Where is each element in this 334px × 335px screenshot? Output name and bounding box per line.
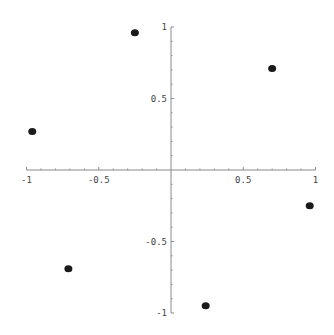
y-tick-label: -1 <box>156 308 167 318</box>
data-point <box>306 202 314 209</box>
data-point <box>268 65 276 72</box>
x-tick-label: 0.5 <box>235 175 251 185</box>
scatter-plot: -1-0.50.5110.5-0.5-1 <box>0 0 334 335</box>
data-point <box>28 128 36 135</box>
data-point <box>202 302 210 309</box>
x-tick-label: -1 <box>21 175 32 185</box>
data-point <box>64 265 72 272</box>
y-tick-label: -0.5 <box>145 237 167 247</box>
y-tick-label: 1 <box>162 22 167 32</box>
x-tick-label: 1 <box>313 175 318 185</box>
x-tick-label: -0.5 <box>88 175 110 185</box>
y-tick-label: 0.5 <box>151 94 167 104</box>
data-point <box>131 29 139 36</box>
